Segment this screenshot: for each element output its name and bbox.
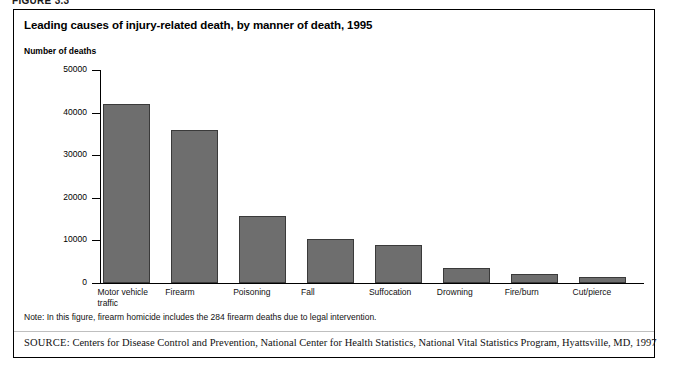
figure-frame: Leading causes of injury-related death, …	[13, 9, 655, 358]
y-axis-caption: Number of deaths	[24, 46, 96, 56]
bar	[511, 274, 558, 283]
source-divider	[14, 331, 654, 332]
y-axis-tick: 50000	[92, 70, 100, 71]
y-axis-tick-mark	[92, 70, 100, 71]
source-label: SOURCE:	[24, 337, 70, 348]
y-axis-tick-label: 30000	[63, 149, 92, 159]
y-axis-tick-label: 0	[82, 277, 92, 287]
bar	[579, 277, 626, 283]
y-axis-tick: 0	[92, 283, 100, 284]
chart-source: SOURCE: Centers for Disease Control and …	[24, 337, 657, 348]
y-axis-tick-mark	[92, 113, 100, 114]
bar	[375, 245, 422, 283]
chart-note: Note: In this figure, firearm homicide i…	[24, 312, 376, 322]
bar	[171, 130, 218, 283]
y-axis-tick-mark	[92, 283, 100, 284]
y-axis-tick-mark	[92, 155, 100, 156]
y-axis-tick-label: 40000	[63, 107, 92, 117]
bars-layer	[101, 62, 644, 284]
chart-title: Leading causes of injury-related death, …	[24, 19, 372, 31]
y-axis-tick-mark	[92, 198, 100, 199]
y-axis-tick: 40000	[92, 113, 100, 114]
y-axis-tick-label: 10000	[63, 234, 92, 244]
figure-number: FIGURE 3.3	[12, 0, 69, 5]
y-axis-tick-mark	[92, 240, 100, 241]
x-axis-category-label: Cut/pierce	[573, 287, 660, 298]
y-axis-tick-label: 20000	[63, 192, 92, 202]
plot-area: 01000020000300004000050000 Motor vehicle…	[24, 62, 644, 302]
bar	[307, 239, 354, 283]
bar	[443, 268, 490, 283]
y-axis-tick: 10000	[92, 240, 100, 241]
source-text: Centers for Disease Control and Preventi…	[72, 337, 656, 348]
y-axis-tick-label: 50000	[63, 64, 92, 74]
bar	[239, 216, 286, 283]
bar	[103, 104, 150, 283]
y-axis-tick: 20000	[92, 198, 100, 199]
y-axis-tick: 30000	[92, 155, 100, 156]
